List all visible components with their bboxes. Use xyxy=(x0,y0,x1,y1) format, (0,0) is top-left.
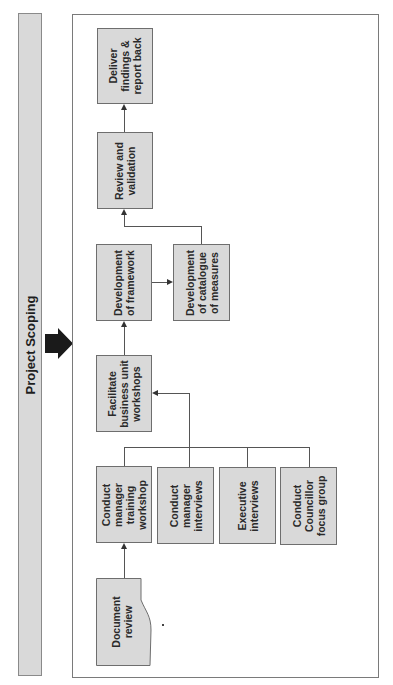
stray-dot xyxy=(162,624,164,626)
connector-review-to-deliver xyxy=(124,110,125,132)
box-deliver-findings-label: Deliver findings & report back xyxy=(107,37,143,94)
box-executive-interviews: Executive interviews xyxy=(219,467,276,544)
box-manager-interviews-label: Conduct manager interviews xyxy=(168,480,204,531)
arrow-up-icon xyxy=(121,543,127,549)
box-development-catalogue: Development of catalogue of measures xyxy=(173,244,230,321)
box-manager-training: Conduct manager training workshop xyxy=(96,466,152,543)
banner-label: Project Scoping xyxy=(23,295,38,394)
box-document-review: Document review xyxy=(96,578,148,666)
connector-catalogue-horizontal xyxy=(124,226,202,227)
box-development-framework-label: Development of framework xyxy=(112,250,136,316)
arrow-up-icon xyxy=(121,321,127,327)
connector-into-facilitate xyxy=(158,393,190,394)
connector-drop-councillor xyxy=(309,447,310,467)
connector-facilitate-to-framework xyxy=(124,327,125,355)
box-manager-training-label: Conduct manager training workshop xyxy=(100,480,148,530)
box-development-catalogue-label: Development of catalogue of measures xyxy=(184,250,220,316)
connector-riser-to-facilitate xyxy=(189,393,190,448)
connector-framework-to-catalogue xyxy=(152,282,167,283)
arrow-up-icon xyxy=(121,104,127,110)
box-review-validation: Review and validation xyxy=(97,132,153,209)
box-facilitate-workshops: Facilitate business unit workshops xyxy=(96,355,152,432)
box-councillor-focus-group: Conduct Councillor focus group xyxy=(280,467,337,545)
box-facilitate-workshops-label: Facilitate business unit workshops xyxy=(106,360,142,428)
connector-bottom-row-horizontal xyxy=(124,447,310,448)
box-review-validation-label: Review and validation xyxy=(113,142,137,200)
connector-drop-manager-interviews xyxy=(189,447,190,467)
connector-drop-training xyxy=(124,447,125,466)
box-document-review-label: Document review xyxy=(110,596,134,647)
arrow-left-icon xyxy=(152,390,158,396)
box-deliver-findings: Deliver findings & report back xyxy=(97,28,153,104)
connector-drop-executive xyxy=(247,447,248,467)
box-development-framework: Development of framework xyxy=(96,244,152,321)
connector-document-to-training xyxy=(124,549,125,578)
box-councillor-focus-group-label: Conduct Councillor focus group xyxy=(291,476,327,537)
box-manager-interviews: Conduct manager interviews xyxy=(157,467,214,544)
connector-to-review xyxy=(124,215,125,227)
block-arrow-right-icon xyxy=(45,328,73,359)
arrow-up-icon xyxy=(121,209,127,215)
connector-catalogue-up xyxy=(201,226,202,244)
project-scoping-banner: Project Scoping xyxy=(18,13,42,676)
arrow-right-icon xyxy=(167,279,173,285)
box-executive-interviews-label: Executive interviews xyxy=(236,480,260,531)
